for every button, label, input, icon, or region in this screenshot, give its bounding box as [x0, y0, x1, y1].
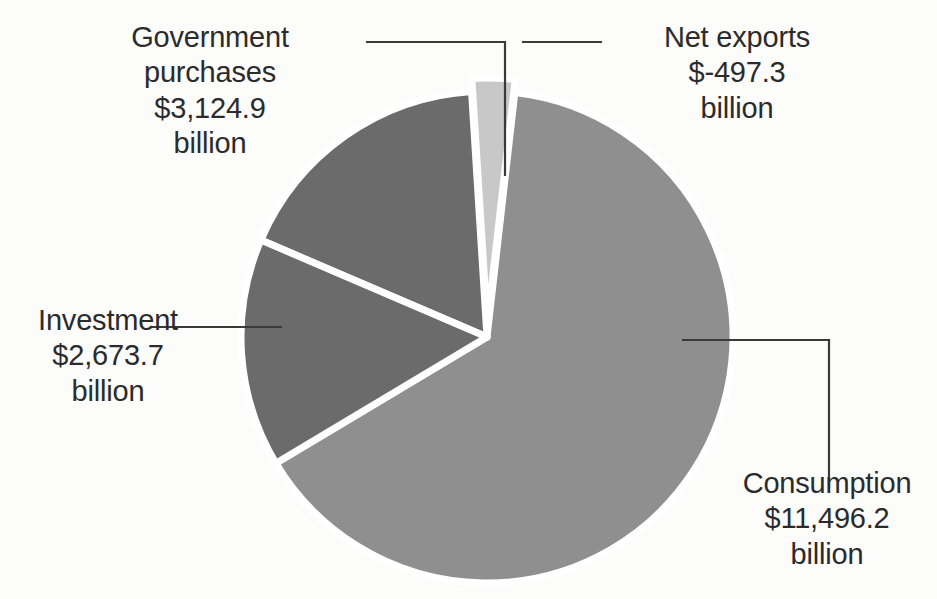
callout-government-line1: Government — [60, 20, 360, 55]
callout-investment-line2: $2,673.7 — [8, 338, 208, 373]
callout-government-line2: purchases — [60, 55, 360, 90]
callout-investment: Investment $2,673.7 billion — [8, 303, 208, 409]
callout-net-exports-line3: billion — [607, 91, 867, 126]
callout-net-exports-line2: $-497.3 — [607, 55, 867, 90]
callout-government-line3: $3,124.9 — [60, 91, 360, 126]
callout-consumption-line2: $11,496.2 — [727, 501, 927, 536]
callout-consumption-line3: billion — [727, 537, 927, 572]
callout-consumption-line1: Consumption — [727, 466, 927, 501]
chart-canvas: Government purchases $3,124.9 billion Ne… — [0, 0, 937, 599]
callout-investment-line1: Investment — [8, 303, 208, 338]
callout-consumption: Consumption $11,496.2 billion — [727, 466, 927, 572]
callout-government-line4: billion — [60, 126, 360, 161]
callout-government-purchases: Government purchases $3,124.9 billion — [60, 20, 360, 162]
callout-investment-line3: billion — [8, 374, 208, 409]
callout-net-exports-line1: Net exports — [607, 20, 867, 55]
callout-net-exports: Net exports $-497.3 billion — [607, 20, 867, 126]
